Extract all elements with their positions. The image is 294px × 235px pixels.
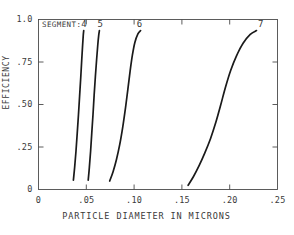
- curve-label-7: 7: [253, 19, 269, 29]
- x-tick-label: .20: [214, 195, 246, 205]
- legend-title: SEGMENT:: [42, 20, 81, 29]
- x-tick-label: .25: [262, 195, 294, 205]
- curve-label-5: 5: [92, 19, 108, 29]
- curve-label-6: 6: [131, 19, 147, 29]
- x-tick-label: 0: [23, 195, 55, 205]
- curve-segment-5: [88, 31, 99, 181]
- curve-segment-4: [73, 31, 83, 181]
- curve-segment-7: [188, 31, 256, 186]
- x-tick-label: .15: [166, 195, 198, 205]
- data-curves: [73, 31, 256, 186]
- y-tick-label: 0: [0, 184, 33, 194]
- chart-figure: 0.25.50.751.0 0.05.10.15.20.25 4567 SEGM…: [0, 0, 293, 235]
- curve-segment-6: [110, 31, 141, 181]
- x-axis-title: PARTICLE DIAMETER IN MICRONS: [0, 211, 293, 221]
- y-tick-label: 1.0: [0, 14, 33, 24]
- y-axis-title: EFFICIENCY: [2, 51, 11, 115]
- x-tick-label: .05: [70, 195, 102, 205]
- y-tick-label: .25: [0, 142, 33, 152]
- x-tick-label: .10: [118, 195, 150, 205]
